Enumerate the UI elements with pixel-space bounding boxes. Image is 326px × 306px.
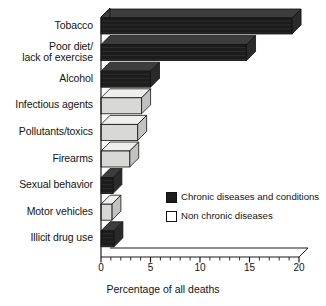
bar-group: [101, 222, 123, 247]
xtick-label-20: 20: [287, 262, 311, 273]
category-label-poor-diet: Poor diet/ lack of exercise: [0, 41, 93, 63]
category-label-motor-vehicles: Motor vehicles: [0, 206, 93, 217]
legend-label-chronic: Chronic diseases and conditions: [181, 191, 319, 202]
category-label-infectious-agents: Infectious agents: [0, 99, 93, 110]
xtick-label-15: 15: [238, 262, 262, 273]
category-label-tobacco: Tobacco: [0, 20, 93, 31]
legend-swatch-non-chronic-icon: [166, 211, 177, 222]
bar-group: [101, 169, 122, 194]
legend-label-non-chronic: Non chronic diseases: [181, 210, 273, 221]
bar-group: [101, 195, 121, 220]
xtick-label-5: 5: [139, 262, 163, 273]
bar-group: [101, 115, 147, 140]
category-label-alcohol: Alcohol: [0, 73, 93, 84]
bar-group: [101, 89, 151, 114]
xtick-label-10: 10: [188, 262, 212, 273]
category-label-sexual-behavior: Sexual behavior: [0, 179, 93, 190]
bar-group: [101, 9, 301, 34]
bar-group: [101, 142, 139, 167]
category-label-illicit-drug-use: Illicit drug use: [0, 232, 93, 243]
category-label-pollutants-toxics: Pollutants/toxics: [0, 126, 93, 137]
xtick-label-0: 0: [89, 262, 113, 273]
bar-chart: Tobacco Poor diet/ lack of exercise Alco…: [0, 0, 326, 306]
x-axis-title: Percentage of all deaths: [0, 283, 326, 295]
category-label-firearms: Firearms: [0, 153, 93, 164]
legend-swatch-chronic-icon: [166, 192, 177, 203]
bar-group: [101, 36, 256, 61]
bar-group: [101, 62, 160, 87]
